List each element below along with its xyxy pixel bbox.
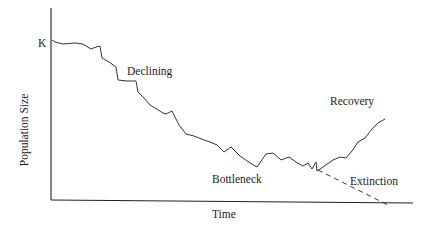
declining-label: Declining	[127, 65, 173, 78]
y-axis-title: Population Size	[18, 94, 31, 167]
x-axis	[51, 200, 413, 203]
population-diagram: K Declining Bottleneck Recovery Extincti…	[0, 0, 432, 232]
recovery-label: Recovery	[330, 95, 374, 108]
x-axis-title: Time	[212, 208, 236, 220]
k-tick-label: K	[38, 37, 47, 49]
bottleneck-label: Bottleneck	[212, 173, 262, 185]
extinction-label: Extinction	[350, 175, 398, 187]
